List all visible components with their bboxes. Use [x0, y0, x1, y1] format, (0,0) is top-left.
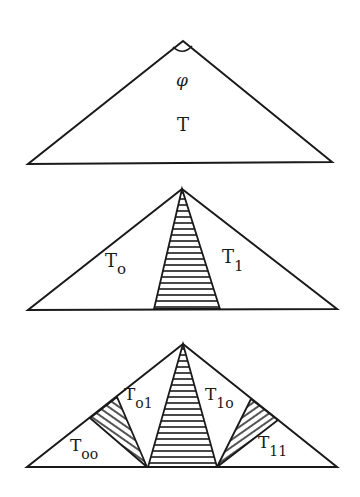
label-T0: To: [105, 250, 126, 278]
panel-2-triangle: To T1: [28, 189, 337, 310]
label-T11: T11: [258, 432, 287, 459]
label-T10: T1o: [205, 384, 234, 411]
angle-label-phi: φ: [176, 70, 188, 90]
label-T00: Too: [70, 435, 98, 462]
label-T1: T1: [222, 246, 244, 275]
panel-1-triangle: φ T: [28, 41, 332, 164]
panel-3-triangle: Too To1 T1o T11: [27, 344, 337, 467]
label-T01: To1: [124, 384, 153, 411]
triangle-label-T: T: [177, 114, 189, 135]
triangle-subdivision-figure: φ T To T1 Too To1 T1o T11: [0, 0, 360, 497]
